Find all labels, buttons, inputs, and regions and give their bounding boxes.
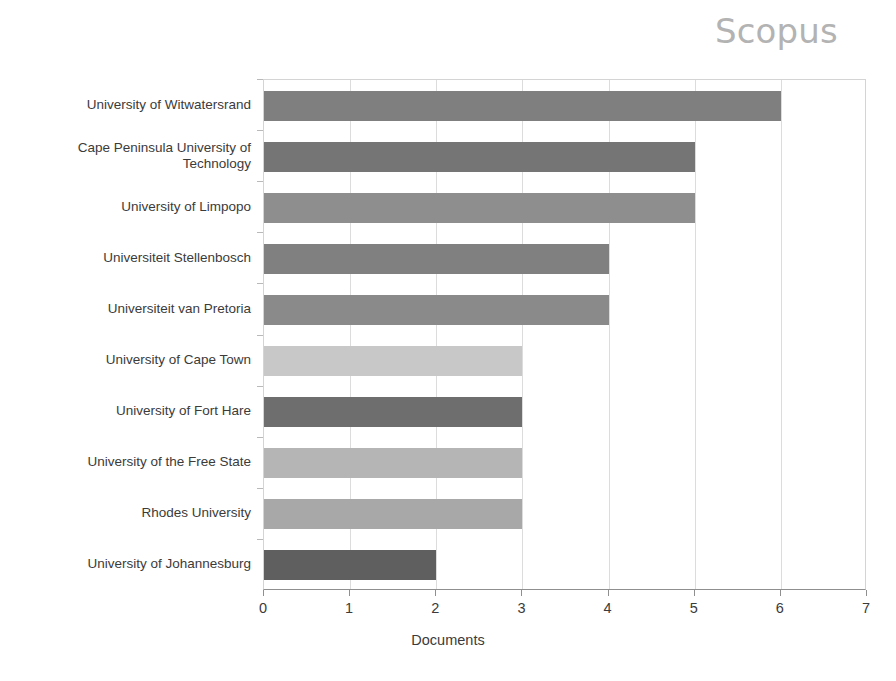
y-axis-tick <box>257 181 263 182</box>
bar[interactable] <box>264 142 695 172</box>
bar-row <box>264 233 865 284</box>
x-axis-tick <box>694 590 695 596</box>
x-axis-tick <box>866 590 867 596</box>
bar[interactable] <box>264 397 522 427</box>
y-axis-label: University of Limpopo <box>11 199 251 215</box>
x-axis-tick <box>349 590 350 596</box>
y-axis-tick <box>257 232 263 233</box>
bar[interactable] <box>264 244 609 274</box>
bar-rows <box>264 80 865 589</box>
bar[interactable] <box>264 193 695 223</box>
bar[interactable] <box>264 550 436 580</box>
x-axis-tick <box>608 590 609 596</box>
bar-row <box>264 387 865 438</box>
y-axis-tick <box>257 283 263 284</box>
y-axis-label: Rhodes University <box>11 505 251 521</box>
y-axis-label: Universiteit van Pretoria <box>11 301 251 317</box>
bar-row <box>264 336 865 387</box>
x-axis-tick-label: 1 <box>329 600 369 616</box>
y-axis-label: Universiteit Stellenbosch <box>11 250 251 266</box>
y-axis-tick <box>257 79 263 80</box>
x-axis-tick-label: 6 <box>760 600 800 616</box>
y-axis-label: University of Witwatersrand <box>11 97 251 113</box>
bar-row <box>264 80 865 131</box>
bar[interactable] <box>264 346 522 376</box>
y-axis-tick <box>257 130 263 131</box>
scopus-logo: Scopus <box>715 14 838 48</box>
y-axis-tick <box>257 488 263 489</box>
x-axis-tick-label: 4 <box>588 600 628 616</box>
y-axis-label: University of Cape Town <box>11 352 251 368</box>
bar-row <box>264 284 865 335</box>
bar[interactable] <box>264 295 609 325</box>
x-axis-title: Documents <box>0 632 896 648</box>
y-axis-tick <box>257 437 263 438</box>
y-axis-label: University of the Free State <box>11 454 251 470</box>
x-axis-tick <box>780 590 781 596</box>
y-axis-label: University of Fort Hare <box>11 403 251 419</box>
x-axis-tick <box>263 590 264 596</box>
bar-row <box>264 131 865 182</box>
y-axis-label: University of Johannesburg <box>11 556 251 572</box>
scopus-documents-bar-chart: Scopus University of WitwatersrandCape P… <box>0 0 896 681</box>
x-axis-tick-label: 7 <box>846 600 886 616</box>
bar[interactable] <box>264 448 522 478</box>
x-axis-tick <box>521 590 522 596</box>
bar-row <box>264 182 865 233</box>
bar[interactable] <box>264 499 522 529</box>
bar-row <box>264 540 865 591</box>
x-axis-tick-label: 2 <box>415 600 455 616</box>
x-axis-tick-label: 5 <box>674 600 714 616</box>
bar[interactable] <box>264 91 781 121</box>
bar-row <box>264 489 865 540</box>
bar-row <box>264 438 865 489</box>
y-axis-label: Cape Peninsula University of Technology <box>11 140 251 172</box>
x-axis-tick <box>435 590 436 596</box>
y-axis-tick <box>257 539 263 540</box>
x-axis-tick-label: 0 <box>243 600 283 616</box>
y-axis-tick <box>257 335 263 336</box>
y-axis-tick <box>257 386 263 387</box>
x-axis-tick-label: 3 <box>501 600 541 616</box>
plot-area <box>263 79 866 590</box>
